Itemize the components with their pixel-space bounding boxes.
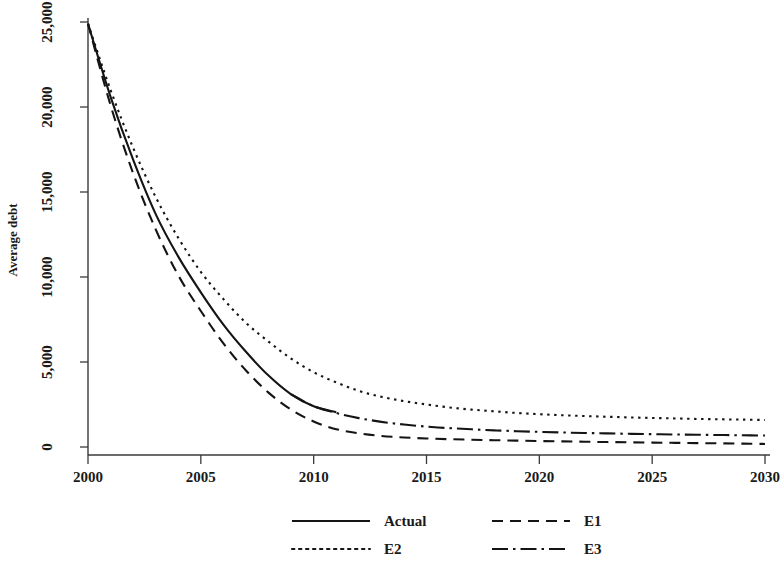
legend-label-e1: E1 xyxy=(584,513,602,529)
y-tick-label: 15,000 xyxy=(39,171,55,212)
y-axis-title: Average debt xyxy=(5,203,20,277)
legend-label-e3: E3 xyxy=(584,541,602,557)
x-tick-label: 2030 xyxy=(750,469,780,485)
legend-label-actual: Actual xyxy=(384,513,427,529)
x-tick-label: 2005 xyxy=(186,469,216,485)
legend-label-e2: E2 xyxy=(384,541,402,557)
x-tick-label: 2025 xyxy=(637,469,667,485)
y-tick-label: 10,000 xyxy=(39,256,55,297)
x-tick-label: 2010 xyxy=(299,469,329,485)
y-tick-label: 5,000 xyxy=(39,345,55,379)
y-tick-label: 20,000 xyxy=(39,86,55,127)
x-tick-label: 2015 xyxy=(412,469,442,485)
x-tick-label: 2020 xyxy=(524,469,554,485)
y-tick-label: 0 xyxy=(39,443,55,451)
x-tick-label: 2000 xyxy=(73,469,103,485)
average-debt-line-chart: Average debt 05,00010,00015,00020,00025,… xyxy=(0,0,784,561)
y-tick-label: 25,000 xyxy=(39,1,55,42)
